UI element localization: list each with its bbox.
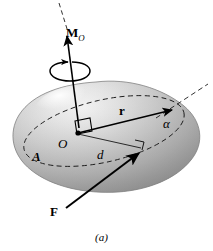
force-label: F bbox=[50, 205, 58, 218]
angle-label: α bbox=[163, 117, 170, 130]
origin-point bbox=[75, 130, 80, 135]
figure-container: MO r α O d A F (a) bbox=[0, 0, 213, 251]
moment-label: MO bbox=[66, 26, 85, 42]
figure-drawing bbox=[0, 0, 213, 251]
moment-arm-label: d bbox=[97, 148, 104, 161]
moment-symbol: M bbox=[66, 25, 78, 40]
point-a-label: A bbox=[32, 150, 41, 163]
figure-caption: (a) bbox=[95, 232, 108, 243]
origin-label: O bbox=[58, 137, 67, 150]
moment-subscript: O bbox=[78, 33, 84, 43]
position-vector-label: r bbox=[119, 104, 125, 117]
